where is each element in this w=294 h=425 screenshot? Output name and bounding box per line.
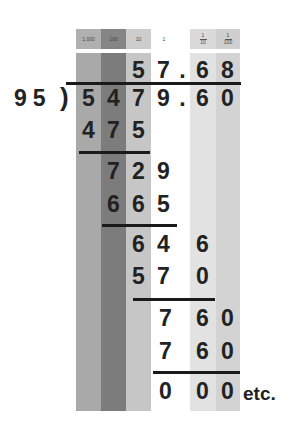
subtraction-line-2	[102, 224, 177, 227]
header-tenths: 110	[190, 29, 216, 49]
header-thousands: 1,000	[76, 29, 101, 49]
subtraction-line-4	[153, 371, 240, 374]
subtraction-line-3	[133, 298, 215, 301]
etc-label: etc.	[243, 383, 276, 405]
header-hundreds: 100	[101, 29, 126, 49]
subtraction-line-1	[79, 151, 150, 154]
header-hundredths: 1100	[216, 29, 240, 49]
divisor: 95	[14, 85, 52, 111]
header-tens: 10	[126, 29, 151, 49]
header-ones: 1	[151, 29, 177, 49]
division-bracket: )	[60, 82, 69, 112]
